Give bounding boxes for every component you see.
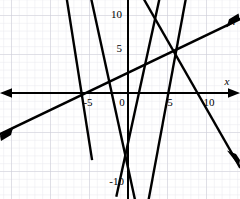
y-tick-label-10: 10 (111, 8, 123, 20)
y-tick-label-5: 5 (117, 42, 123, 54)
line-l-label: l (232, 15, 235, 27)
x-tick-label-5: 5 (167, 96, 173, 108)
x-tick-label-0: 0 (119, 96, 125, 108)
graph-canvas: -5 0 5 10 10 5 -10 x l (0, 0, 240, 199)
x-axis-label: x (224, 75, 230, 87)
x-tick-label-10: 10 (204, 96, 216, 108)
coordinate-graph-figure: -5 0 5 10 10 5 -10 x l (0, 0, 240, 199)
x-tick-label-neg5: -5 (83, 96, 93, 108)
y-tick-label-neg10: -10 (109, 175, 124, 187)
